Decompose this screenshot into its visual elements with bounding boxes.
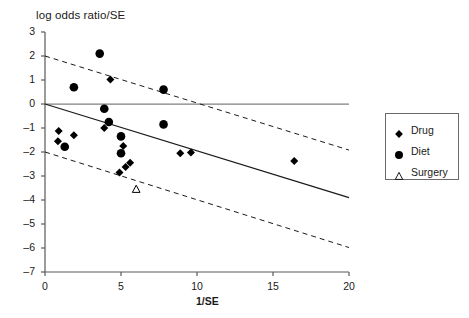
data-point-diet[interactable]	[100, 105, 109, 114]
y-axis-tick-label: 1	[13, 73, 35, 85]
data-point-diet[interactable]	[60, 142, 69, 151]
legend-item-surgery[interactable]: Surgery	[394, 165, 448, 179]
lower-confidence-bound	[45, 152, 349, 248]
series-surgery	[132, 185, 140, 192]
data-point-diet[interactable]	[159, 85, 168, 94]
data-point-drug[interactable]	[70, 131, 78, 139]
legend-item-diet[interactable]: Diet	[394, 144, 430, 158]
data-point-diet[interactable]	[105, 118, 114, 127]
data-point-diet[interactable]	[159, 120, 168, 129]
y-axis-tick-label: –1	[13, 121, 35, 133]
x-axis-tick-label: 10	[186, 280, 208, 292]
y-axis-tick-label: –5	[13, 217, 35, 229]
x-axis-tick-label: 0	[34, 280, 56, 292]
data-point-drug[interactable]	[115, 168, 123, 176]
series-drug	[54, 76, 298, 177]
legend: Drug Diet Surgery	[385, 113, 459, 180]
data-point-diet[interactable]	[70, 83, 79, 92]
x-axis-tick-label: 20	[338, 280, 360, 292]
y-axis-tick-label: 0	[13, 97, 35, 109]
data-point-drug[interactable]	[106, 76, 114, 84]
y-axis-tick-label: –6	[13, 241, 35, 253]
legend-item-label: Drug	[411, 123, 434, 137]
data-point-surgery[interactable]	[132, 185, 140, 192]
y-axis-tick-label: 2	[13, 49, 35, 61]
y-axis-tick-label: –3	[13, 169, 35, 181]
x-axis-tick-label: 15	[262, 280, 284, 292]
data-point-diet[interactable]	[95, 49, 104, 58]
upper-confidence-bound	[45, 56, 349, 150]
data-point-drug[interactable]	[176, 149, 184, 157]
x-axis-tick-label: 5	[110, 280, 132, 292]
data-point-drug[interactable]	[55, 127, 63, 135]
y-axis-tick-label: 3	[13, 25, 35, 37]
y-axis-tick-label: –4	[13, 193, 35, 205]
legend-item-label: Surgery	[411, 165, 448, 179]
funnel-plot-figure: log odds ratio/SE 1/SE Drug Diet Surgery…	[0, 0, 469, 318]
y-axis-tick-label: –2	[13, 145, 35, 157]
filled-circle-icon	[394, 146, 404, 156]
data-point-drug[interactable]	[54, 137, 62, 145]
y-axis-tick-label: –7	[13, 265, 35, 277]
legend-item-drug[interactable]: Drug	[394, 123, 434, 137]
data-point-drug[interactable]	[119, 142, 127, 150]
regression-line	[45, 104, 349, 198]
axis-spine	[45, 32, 349, 272]
data-point-diet[interactable]	[117, 132, 126, 141]
data-point-drug[interactable]	[290, 157, 298, 165]
open-triangle-icon	[394, 167, 404, 177]
x-axis-label: 1/SE	[196, 295, 219, 307]
filled-diamond-icon	[394, 125, 404, 135]
legend-item-label: Diet	[411, 144, 430, 158]
data-point-diet[interactable]	[117, 149, 126, 158]
